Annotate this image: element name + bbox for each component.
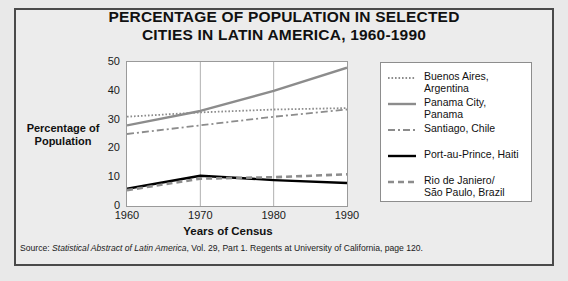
- legend-swatch-2: [387, 123, 417, 137]
- source-title: Statistical Abstract of Latin America: [52, 243, 187, 253]
- legend-item-1: Panama City, Panama: [387, 96, 525, 122]
- legend-label-0: Buenos Aires, Argentina: [424, 70, 525, 94]
- legend-swatch-0: [387, 71, 417, 85]
- legend-item-4: Rio de Janiero/ São Paulo, Brazil: [387, 174, 525, 206]
- series-line-0: [127, 108, 347, 117]
- y-tick-40: 40: [80, 84, 120, 96]
- source-prefix: Source:: [20, 243, 52, 253]
- chart-title-line-2: CITIES IN LATIN AMERICA, 1960-1990: [0, 26, 568, 44]
- x-tick-1980: 1980: [251, 209, 297, 221]
- x-tick-1990: 1990: [324, 209, 370, 221]
- x-tick-1960: 1960: [104, 209, 150, 221]
- y-tick-10: 10: [80, 170, 120, 182]
- series-lines: [127, 62, 347, 206]
- chart-legend: Buenos Aires, ArgentinaPanama City, Pana…: [380, 62, 532, 202]
- x-axis-label: Years of Census: [108, 225, 348, 237]
- legend-swatch-1: [387, 97, 417, 111]
- plot-wrapper: 01020304050 1960197019801990: [108, 55, 348, 213]
- legend-label-4: Rio de Janiero/ São Paulo, Brazil: [424, 174, 505, 198]
- chart-figure: PERCENTAGE OF POPULATION IN SELECTED CIT…: [0, 0, 568, 281]
- legend-swatch-3: [387, 149, 417, 163]
- plot-area: [126, 61, 348, 207]
- legend-label-2: Santiago, Chile: [424, 122, 495, 135]
- legend-swatch-4: [387, 175, 417, 189]
- legend-item-3: Port-au-Prince, Haiti: [387, 148, 525, 174]
- legend-item-2: Santiago, Chile: [387, 122, 525, 148]
- legend-label-3: Port-au-Prince, Haiti: [424, 148, 519, 161]
- source-suffix: , Vol. 29, Part 1. Regents at University…: [187, 243, 423, 253]
- legend-item-0: Buenos Aires, Argentina: [387, 70, 525, 96]
- y-tick-50: 50: [80, 55, 120, 67]
- x-tick-1970: 1970: [177, 209, 223, 221]
- y-tick-30: 30: [80, 113, 120, 125]
- y-tick-20: 20: [80, 141, 120, 153]
- legend-label-1: Panama City, Panama: [424, 96, 525, 120]
- chart-title-line-1: PERCENTAGE OF POPULATION IN SELECTED: [0, 8, 568, 26]
- series-line-2: [127, 110, 347, 134]
- chart-title: PERCENTAGE OF POPULATION IN SELECTED CIT…: [0, 8, 568, 44]
- series-line-1: [127, 68, 347, 126]
- source-citation: Source: Statistical Abstract of Latin Am…: [20, 243, 554, 253]
